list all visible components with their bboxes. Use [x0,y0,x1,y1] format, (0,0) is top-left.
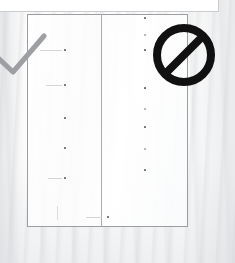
perforation-dot [64,147,66,149]
perforation-dot-faint [144,148,146,150]
upper-white-panel [0,0,219,12]
perforation-dot [144,169,146,171]
perforation-dot [64,177,66,179]
perforation-dot [144,49,146,51]
perforation-dot-faint [144,108,146,110]
screenshot-root [0,0,235,263]
prohibition-icon [153,24,215,86]
center-divider-line [101,14,102,227]
guide-tick [46,85,62,86]
perforation-dot [144,87,146,89]
bottom-perforation-dot [107,216,109,218]
guide-tick [40,50,62,51]
guide-tick [48,178,62,179]
guide-tick [86,217,102,218]
perforation-dot [144,17,146,19]
perforation-dot-faint [144,34,146,36]
perforation-dot [64,49,66,51]
perforation-dot [64,117,66,119]
perforation-dot [144,126,146,128]
perforation-dot [64,84,66,86]
guide-tick [57,206,58,220]
